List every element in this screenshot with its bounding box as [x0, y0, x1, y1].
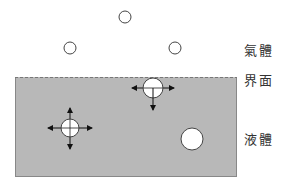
liquid-body: [15, 77, 237, 177]
gas-molecules: [64, 11, 181, 54]
surface-tension-diagram: [0, 0, 282, 190]
liquid-region: [15, 77, 237, 177]
gas-molecule: [169, 42, 181, 54]
liquid-label: 液體: [244, 129, 274, 148]
gas-molecule: [119, 11, 131, 23]
gas-label: 氣體: [244, 40, 274, 59]
gas-molecule: [64, 42, 76, 54]
interface-label: 界面: [244, 70, 274, 89]
plain-liquid-molecule: [181, 128, 203, 150]
